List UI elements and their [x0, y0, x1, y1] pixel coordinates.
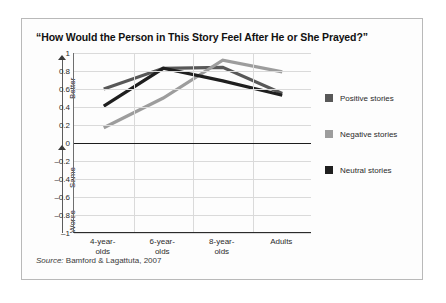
legend-item: Negative stories — [325, 123, 421, 145]
chart-legend: Positive storiesNegative storiesNeutral … — [325, 87, 421, 195]
source-note: Source: Bamford & Lagattuta, 2007 — [36, 256, 161, 265]
legend-swatch-icon — [325, 166, 333, 174]
x-tick-label: 6-year-olds — [134, 237, 190, 256]
gridline — [74, 233, 311, 234]
x-axis-ticks: 4-year-olds6-year-olds8-year-oldsAdults — [73, 53, 311, 93]
y-tick-label: 0.2 — [36, 121, 70, 130]
y-tick-label: 0.8 — [36, 67, 70, 76]
y-tick-label: –0.2 — [36, 157, 70, 166]
chart-figure: “How Would the Person in This Story Feel… — [21, 18, 423, 280]
legend-label: Negative stories — [340, 130, 397, 139]
x-tick-label: 8-year-olds — [194, 237, 250, 256]
x-tick-label: Adults — [253, 237, 309, 247]
legend-label: Neutral stories — [340, 166, 392, 175]
chart-title: “How Would the Person in This Story Feel… — [36, 31, 411, 43]
y-tick-label: 0.6 — [36, 85, 70, 94]
y-tick-label: 1 — [36, 49, 70, 58]
x-tick-label: 4-year-olds — [75, 237, 131, 256]
y-axis-ticks: 10.80.60.40.20–0.2–0.4–0.6–0.8–1 — [32, 53, 70, 233]
legend-item: Neutral stories — [325, 159, 421, 181]
legend-swatch-icon — [325, 130, 333, 138]
y-tick-label: –1 — [36, 229, 70, 238]
source-text: Bamford & Lagattuta, 2007 — [64, 256, 162, 265]
zero-baseline — [74, 143, 311, 144]
legend-label: Positive stories — [340, 94, 394, 103]
y-tick-label: 0 — [36, 139, 70, 148]
source-label: Source: — [36, 256, 64, 265]
y-tick-label: 0.4 — [36, 103, 70, 112]
y-tick-label: –0.6 — [36, 193, 70, 202]
legend-swatch-icon — [325, 94, 333, 102]
y-tick-label: –0.8 — [36, 211, 70, 220]
y-tick-label: –0.4 — [36, 175, 70, 184]
legend-item: Positive stories — [325, 87, 421, 109]
